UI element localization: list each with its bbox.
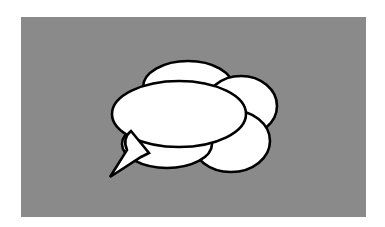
speech-bubble-illustration xyxy=(0,0,385,227)
